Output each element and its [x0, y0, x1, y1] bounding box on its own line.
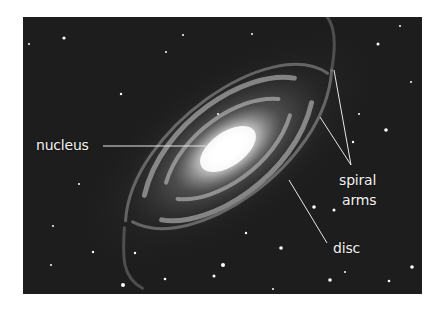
galaxy-photo: [23, 17, 422, 294]
disc-pointer-line: [289, 180, 327, 243]
nucleus-label: nucleus: [36, 137, 89, 153]
galaxy-image: [23, 17, 422, 294]
spiral-arms-label-line-1: spiral: [339, 172, 376, 188]
galaxy-disc: [39, 17, 417, 294]
spiral-arms-label: spiral arms: [339, 172, 376, 208]
spiral-arms-label-line-2: arms: [339, 192, 376, 208]
disc-label: disc: [333, 240, 360, 256]
